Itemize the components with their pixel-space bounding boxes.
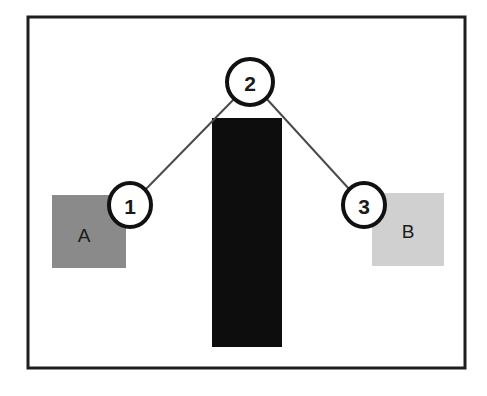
center-obstacle-block xyxy=(212,118,282,347)
node-2-label: 2 xyxy=(244,72,256,95)
node-2[interactable]: 2 xyxy=(227,59,273,105)
diagram-svg: A B 1 2 3 xyxy=(0,0,487,396)
node-1[interactable]: 1 xyxy=(109,183,151,227)
figure-canvas: A B 1 2 3 xyxy=(0,0,487,396)
node-3[interactable]: 3 xyxy=(343,183,385,227)
region-a-label: A xyxy=(78,225,91,246)
region-b-label: B xyxy=(402,221,415,242)
node-3-label: 3 xyxy=(358,195,370,218)
node-1-label: 1 xyxy=(124,195,136,218)
